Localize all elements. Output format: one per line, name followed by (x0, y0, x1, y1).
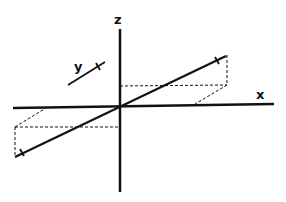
x-axis (13, 104, 274, 108)
x-axis-label: x (256, 87, 265, 102)
z-axis-label: z (114, 12, 122, 27)
y-axis-label: y (74, 59, 83, 74)
axes-diagram: z y x (0, 0, 286, 202)
